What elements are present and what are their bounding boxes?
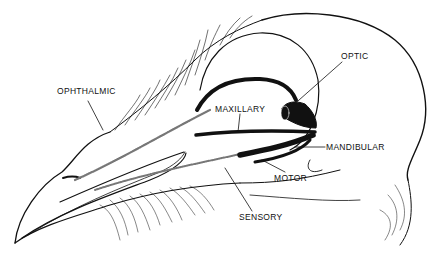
ear-opening [308,160,322,172]
label-ophthalmic: OPHTHALMIC [57,87,116,96]
mandibular-nerve [240,135,313,155]
label-motor: MOTOR [274,174,307,183]
anatomical-drawing [0,0,439,263]
lower-beak [15,183,240,243]
feather-strokes-neck [380,185,405,240]
label-optic: OPTIC [341,52,368,61]
feather-strokes-chin [100,186,214,240]
maxillary-nerve [196,131,315,135]
label-mandibular: MANDIBULAR [326,143,385,152]
optic-nerve-end [281,106,289,120]
upper-beak [15,132,110,243]
label-maxillary: MAXILLARY [215,105,265,114]
bird-head-nerve-diagram: OPHTHALMIC OPTIC MAXILLARY MANDIBULAR MO… [0,0,439,263]
neck-contour [400,180,411,245]
ophthalmic-nerve-band [75,110,210,180]
label-sensory: SENSORY [239,213,283,222]
chin-line [250,195,360,201]
